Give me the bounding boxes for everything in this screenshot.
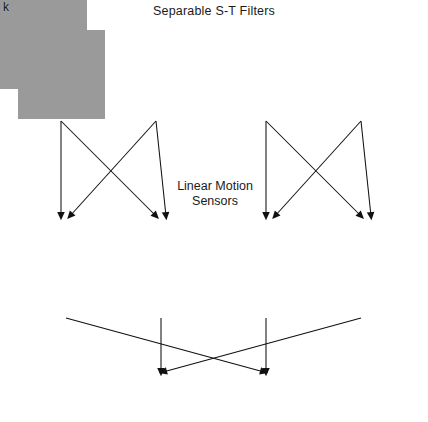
wire-d-to-h xyxy=(156,121,166,216)
lms-line1: Linear Motion xyxy=(176,179,254,194)
linear-motion-sensors-label: Linear Motion Sensors xyxy=(176,179,254,209)
wire-g-to-right-sum xyxy=(66,318,264,372)
lms-line2: Sensors xyxy=(176,194,254,209)
wire-c-to-h xyxy=(61,121,156,216)
filter-panel-k[interactable]: k xyxy=(0,0,87,89)
wire-e-to-k xyxy=(266,121,361,216)
wire-f-to-k xyxy=(361,121,371,216)
wire-f-to-j xyxy=(275,121,361,216)
figure-canvas: Separable S-T Filters c xyxy=(0,0,428,422)
wire-d-to-g xyxy=(70,121,156,216)
wire-k-to-left-sum xyxy=(163,318,361,372)
panel-label-k: k xyxy=(3,0,9,14)
